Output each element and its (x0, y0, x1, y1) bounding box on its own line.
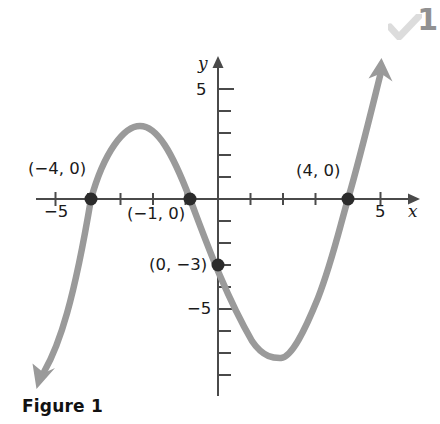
point-marker-neg4-0[interactable] (85, 193, 98, 206)
x-tick-label-neg5: −5 (44, 204, 68, 221)
y-tick-label-5: 5 (196, 82, 207, 99)
y-axis-label: y (198, 55, 208, 72)
cubic-curve (33, 58, 393, 389)
figure-caption: Figure 1 (22, 396, 103, 416)
figure-container: y x 5 −5 −5 5 (−4, 0) (−1, 0) (4, 0) (0,… (0, 0, 440, 424)
curve-stroke (44, 72, 381, 372)
x-axis-label: x (408, 203, 418, 220)
point-label-0-neg3: (0, −3) (149, 257, 207, 274)
point-label-4-0: (4, 0) (296, 163, 340, 180)
point-marker-neg1-0[interactable] (184, 193, 197, 206)
marked-points (85, 193, 355, 272)
point-label-neg4-0: (−4, 0) (28, 161, 86, 178)
page-number: 1 (417, 2, 438, 37)
y-tick-label-neg5: −5 (187, 301, 211, 318)
x-tick-label-5: 5 (375, 204, 386, 221)
point-marker-0-neg3[interactable] (212, 259, 225, 272)
y-axis (213, 56, 235, 396)
y-axis-ticks (218, 89, 234, 375)
point-marker-4-0[interactable] (342, 193, 355, 206)
y-axis-arrowhead (213, 56, 224, 68)
point-label-neg1-0: (−1, 0) (127, 206, 185, 223)
